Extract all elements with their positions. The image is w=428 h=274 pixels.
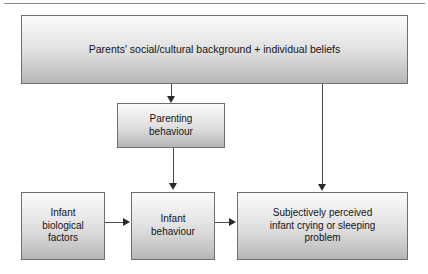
- node-label-parenting-behaviour: Parenting behaviour: [145, 113, 197, 139]
- edge-infant-behaviour-to-perceived: [215, 222, 230, 223]
- node-parents-background: Parents' social/cultural background + in…: [21, 15, 408, 84]
- node-subjectively-perceived-problem: Subjectively perceived infant crying or …: [237, 192, 408, 260]
- arrow-right-icon: [229, 218, 236, 226]
- arrow-down-icon: [167, 96, 175, 103]
- node-parenting-behaviour: Parenting behaviour: [117, 103, 225, 148]
- node-infant-biological-factors: Infant biological factors: [21, 192, 105, 260]
- node-label-subjectively-perceived-problem: Subjectively perceived infant crying or …: [266, 207, 380, 245]
- arrow-down-icon: [169, 183, 177, 190]
- header-divider: [4, 3, 425, 4]
- diagram-canvas: Parents' social/cultural background + in…: [0, 0, 428, 274]
- node-label-parents-background: Parents' social/cultural background + in…: [85, 43, 345, 56]
- edge-parenting-to-infant-behaviour: [173, 148, 174, 184]
- node-label-infant-behaviour: Infant behaviour: [147, 213, 199, 239]
- arrow-down-icon: [318, 184, 326, 191]
- arrow-right-icon: [123, 218, 130, 226]
- edge-background-to-perceived: [322, 84, 323, 185]
- node-infant-behaviour: Infant behaviour: [131, 192, 215, 260]
- edge-biological-to-infant-behaviour: [105, 222, 124, 223]
- node-label-infant-biological-factors: Infant biological factors: [38, 207, 88, 245]
